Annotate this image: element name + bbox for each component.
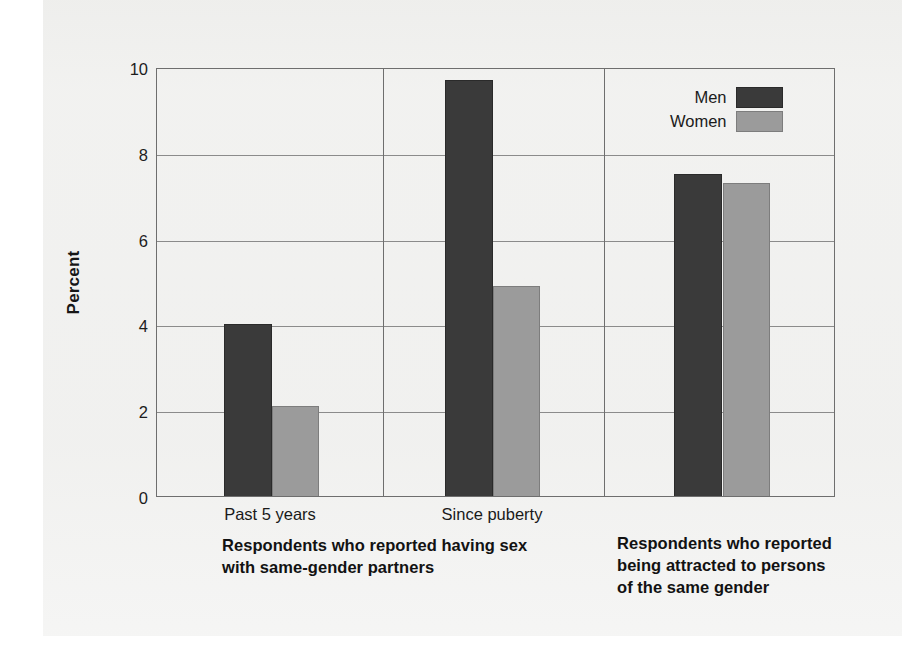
y-axis-title: Percent <box>62 68 86 497</box>
y-tick-0: 0 <box>139 489 148 508</box>
x-category-since-puberty: Since puberty <box>442 505 543 524</box>
y-tick-2: 2 <box>139 403 148 422</box>
caption-left-group: Respondents who reported having sex with… <box>222 535 602 579</box>
legend-label-men: Men <box>694 88 726 107</box>
y-tick-8: 8 <box>139 145 148 164</box>
caption-right-line-2: being attracted to persons <box>617 555 877 577</box>
y-tick-4: 4 <box>139 317 148 336</box>
legend-swatch-women-icon <box>736 111 783 132</box>
bar-women-past-5-years <box>272 406 319 496</box>
bar-men-past-5-years <box>224 324 272 496</box>
legend-swatch-men-icon <box>736 87 783 108</box>
gridline-8 <box>157 155 834 156</box>
bar-men-attracted <box>674 174 722 496</box>
group-divider-2 <box>604 69 605 496</box>
caption-left-line-2: with same-gender partners <box>222 557 602 579</box>
chart-figure: Percent 10 8 6 4 2 0 Men <box>0 0 902 650</box>
legend-label-women: Women <box>670 112 727 131</box>
bar-men-since-puberty <box>445 80 493 496</box>
caption-right-line-1: Respondents who reported <box>617 533 877 555</box>
legend-item-women: Women <box>670 109 783 133</box>
group-divider-1 <box>383 69 384 496</box>
caption-left-line-1: Respondents who reported having sex <box>222 535 602 557</box>
bar-women-since-puberty <box>493 286 540 496</box>
legend-item-men: Men <box>670 85 783 109</box>
caption-right-line-3: of the same gender <box>617 577 877 599</box>
y-tick-10: 10 <box>130 60 148 79</box>
plot-area: 10 8 6 4 2 0 Men Women <box>156 68 835 497</box>
y-tick-6: 6 <box>139 231 148 250</box>
caption-right-group: Respondents who reported being attracted… <box>617 533 877 598</box>
bar-women-attracted <box>723 183 770 496</box>
x-category-past-5-years: Past 5 years <box>224 505 316 524</box>
legend: Men Women <box>670 85 783 133</box>
